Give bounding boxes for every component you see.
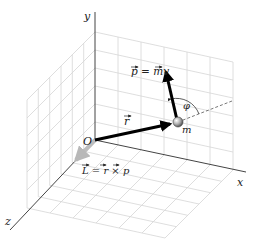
z-axis-label: z [4, 215, 11, 228]
angular-momentum-label: L = r × p [81, 165, 130, 176]
momentum-label-group: p = mv [131, 65, 169, 77]
momentum-vector [166, 72, 177, 120]
origin-label: O [83, 135, 92, 148]
mass-label: m [182, 124, 191, 135]
phi-label: φ [183, 100, 190, 111]
angular-momentum-diagram: y x z O m φ r p = mv L = r × p [0, 0, 258, 248]
yz-plane-grid [27, 32, 95, 208]
y-axis-label: y [83, 10, 91, 23]
xy-plane-grid [95, 32, 233, 170]
position-vector-label-group: r [124, 115, 131, 128]
position-vector [95, 124, 170, 140]
position-vector-label: r [124, 115, 130, 128]
angular-momentum-label-group: L = r × p [81, 165, 130, 176]
x-axis-label: x [237, 176, 244, 189]
